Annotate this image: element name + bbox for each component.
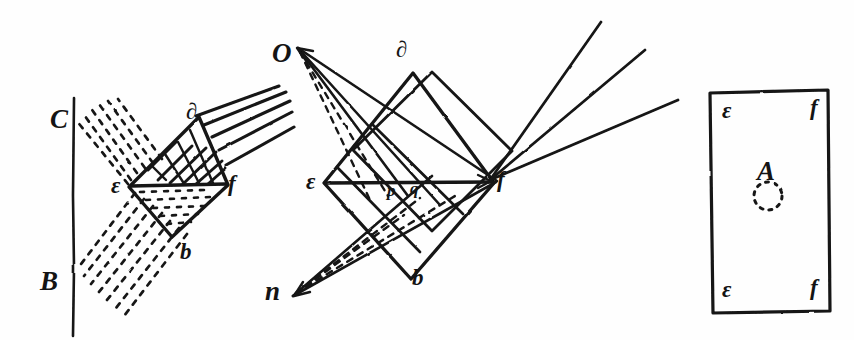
diagram-page: C B ∂ ε f b O ∂ ε p q f n b ε f A ε f [0, 0, 854, 340]
right-label-f-top: f [810, 96, 818, 119]
left-dashed-fan-lower [78, 193, 187, 316]
middle-emergent-rays [490, 22, 678, 180]
right-label-epsilon-top: ε [722, 99, 731, 122]
left-dashed-fan-upper [76, 99, 162, 184]
left-label-f: f [228, 172, 236, 195]
left-label-b: b [180, 240, 192, 263]
right-label-f-bottom: f [810, 276, 818, 299]
middle-label-O: O [272, 40, 292, 67]
middle-dashed-rays-from-n [296, 196, 455, 293]
right-label-A: A [757, 158, 775, 185]
left-screen-line [73, 98, 74, 336]
left-label-d: ∂ [186, 100, 197, 123]
left-figure-group [73, 86, 294, 336]
left-incident-rays [196, 86, 294, 165]
left-axis-line [131, 184, 226, 186]
right-dotted-circle [754, 182, 782, 210]
middle-label-f: f [497, 168, 505, 191]
left-label-epsilon: ε [111, 174, 120, 197]
left-upper-hatch [148, 142, 226, 184]
middle-label-p: p [387, 182, 396, 199]
middle-label-d: ∂ [396, 38, 407, 61]
middle-label-q: q [410, 180, 419, 197]
middle-figure-group [293, 22, 678, 296]
right-label-epsilon-bottom: ε [722, 278, 731, 301]
middle-label-b: b [412, 266, 424, 289]
middle-label-n: n [265, 278, 280, 305]
left-label-C: C [50, 106, 68, 133]
middle-label-epsilon: ε [306, 170, 315, 193]
left-label-B: B [40, 268, 58, 295]
